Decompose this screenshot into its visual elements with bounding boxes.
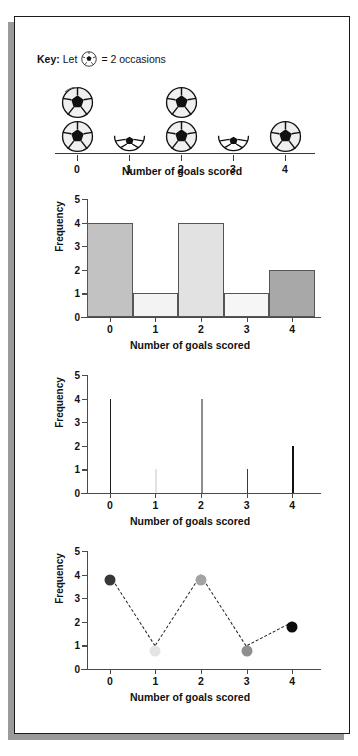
vline-chart-xtick-3 [247,494,248,498]
dot-chart-xtick-4 [292,670,293,674]
dot-chart-xtitle: Number of goals scored [45,691,335,703]
dot-chart-xlabel-4: 4 [277,675,307,687]
bar-chart-ylabel-1: 1 [67,288,80,299]
pictogram-tick-3 [233,155,234,161]
key-equals-text: = 2 occasions [101,53,166,65]
vline-chart-xtick-2 [201,494,202,498]
bar-chart-xtick-4 [292,318,293,322]
vline-chart-xlabel-1: 1 [140,499,170,511]
pictogram-key: Key: Let = 2 occasions [37,51,166,67]
bar-1 [133,293,179,317]
vline-chart-ylabel-4: 4 [67,393,80,404]
soccer-ball-icon [61,86,94,119]
dashed-segment-1 [155,575,201,646]
pictogram-column-4 [265,120,305,153]
vline-chart-ytick-0 [82,493,87,494]
soccer-ball-half-icon [113,135,146,153]
vertical-line-1 [155,469,157,493]
bar-chart-xtick-3 [247,318,248,322]
vertical-line-3 [247,469,249,493]
soccer-ball-icon [61,120,94,153]
bar-4 [269,270,315,317]
vline-chart-xtick-4 [292,494,293,498]
pictogram-column-2 [161,86,201,153]
pictogram-column-0 [57,86,97,153]
worksheet-page: Key: Let = 2 occasions [14,16,350,734]
dot-chart-plot [87,551,315,669]
dot-chart-ylabel-5: 5 [67,546,80,557]
vline-chart-ylabel-0: 0 [67,488,80,499]
dot-chart-ylabel-3: 3 [67,593,80,604]
vline-chart-ylabel-1: 1 [67,464,80,475]
bar-chart-xlabel-4: 4 [277,323,307,335]
bar-chart-ylabel-0: 0 [67,312,80,323]
bar-chart-ytick-3 [82,246,87,247]
vline-chart-ytick-3 [82,422,87,423]
pictogram-axis-title: Number of goals scored [15,165,349,177]
soccer-ball-icon [269,120,302,153]
bar-chart-plot [87,199,315,317]
bar-0 [87,223,133,317]
dot-chart-ylabel-2: 2 [67,616,80,627]
dot-chart-ytick-1 [82,645,87,646]
dot-chart-xlabel-0: 0 [95,675,125,687]
data-point-1 [150,645,161,656]
dot-chart-ytick-3 [82,598,87,599]
dot-chart-ytick-5 [82,551,87,552]
dot-chart-ytick-2 [82,622,87,623]
bar-chart-xlabel-3: 3 [232,323,262,335]
bar-chart-ytick-4 [82,223,87,224]
soccer-ball-half-icon [217,135,250,153]
bar-3 [224,293,270,317]
data-point-4 [287,622,298,633]
dot-chart-ytitle: Frequency [54,542,65,616]
dot-chart-ylabel-4: 4 [67,569,80,580]
bar-chart-ytitle: Frequency [54,190,65,264]
vline-chart-ylabel-2: 2 [67,440,80,451]
bar-2 [178,223,224,317]
vline-chart-ytick-5 [82,375,87,376]
bar-chart-ylabel-2: 2 [67,264,80,275]
vline-chart-xtitle: Number of goals scored [45,515,335,527]
bar-chart-ytick-5 [82,199,87,200]
data-point-3 [241,645,252,656]
vertical-line-2 [201,399,203,493]
vline-chart-ytick-2 [82,446,87,447]
bar-chart-ylabel-4: 4 [67,217,80,228]
pictogram-column-3 [213,135,253,153]
bar-chart-xlabel-2: 2 [186,323,216,335]
vline-chart-ytitle: Frequency [54,366,65,440]
vline-chart-xtick-0 [110,494,111,498]
pictogram-tick-0 [77,155,78,161]
bar-chart-xlabel-1: 1 [140,323,170,335]
frequency-polygon-chart: Frequency Number of goals scored 0123450… [45,545,335,705]
data-point-0 [104,575,115,586]
bar-chart-xtick-1 [155,318,156,322]
vline-chart-ytick-1 [82,469,87,470]
bar-chart-xtick-2 [201,318,202,322]
pictogram-chart: 0 1 2 3 4 [55,75,315,175]
vline-chart-xlabel-4: 4 [277,499,307,511]
vline-chart-xlabel-2: 2 [186,499,216,511]
vline-chart-ylabel-3: 3 [67,417,80,428]
dot-chart-xtick-2 [201,670,202,674]
vline-chart-xlabel-0: 0 [95,499,125,511]
bar-chart-xtick-0 [110,318,111,322]
soccer-ball-icon [165,86,198,119]
bar-chart-ylabel-3: 3 [67,241,80,252]
dot-chart-xlabel-3: 3 [232,675,262,687]
bar-chart-ytick-2 [82,270,87,271]
bar-chart-xlabel-0: 0 [95,323,125,335]
vertical-line-chart: Frequency Number of goals scored 0123450… [45,369,335,529]
dot-chart-xtick-3 [247,670,248,674]
bar-chart-ytick-1 [82,293,87,294]
pictogram-column-1 [109,135,149,153]
dot-chart-ytick-0 [82,669,87,670]
dot-chart-xlabel-1: 1 [140,675,170,687]
key-let-word: Let [63,53,78,65]
dot-chart-ytick-4 [82,575,87,576]
bar-chart-xtitle: Number of goals scored [45,339,335,351]
dashed-segment-0 [109,575,155,646]
vline-chart-plot [87,375,315,493]
vline-chart-xlabel-3: 3 [232,499,262,511]
